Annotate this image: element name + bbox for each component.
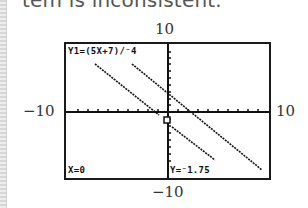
ymax-label: 10 xyxy=(155,20,174,38)
trace-cursor-icon xyxy=(164,117,170,123)
page-edge-strip xyxy=(0,0,7,208)
line-y1-upper xyxy=(95,64,159,115)
cutoff-paragraph-text: tem is inconsistent. xyxy=(22,0,222,12)
line-y1-lower xyxy=(172,127,215,160)
calculator-graph-screen: Y1=(5X+7)/⁻4 X=0 Y=⁻1.75 xyxy=(64,42,271,180)
xmax-label: 10 xyxy=(276,102,295,120)
x-value-readout: X=0 xyxy=(68,165,85,175)
y-value-readout: Y=⁻1.75 xyxy=(170,165,210,175)
graph-plot xyxy=(66,44,269,178)
equation-readout: Y1=(5X+7)/⁻4 xyxy=(68,46,137,56)
line-y2 xyxy=(132,64,262,170)
xmin-label: −10 xyxy=(23,102,55,120)
ymin-label: −10 xyxy=(152,183,184,201)
